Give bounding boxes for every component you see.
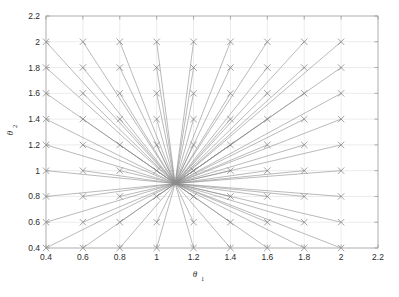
convergence-plot: 0.40.60.811.21.41.61.822.2 0.40.60.811.2… bbox=[0, 0, 399, 297]
y-axis-title-text: θ bbox=[5, 130, 15, 135]
x-tick-labels: 0.40.60.811.21.41.61.822.2 bbox=[40, 252, 384, 262]
x-axis-title: θ 1 bbox=[193, 269, 204, 282]
x-tick-label: 1.6 bbox=[261, 252, 273, 262]
x-tick-label: 2.2 bbox=[372, 252, 384, 262]
grid-lines bbox=[46, 16, 378, 248]
trajectory-line bbox=[46, 184, 175, 223]
y-tick-label: 2 bbox=[35, 37, 40, 47]
trajectory-line bbox=[175, 119, 341, 183]
trajectory-line bbox=[175, 42, 193, 184]
trajectory-line bbox=[175, 184, 304, 248]
x-tick-label: 2 bbox=[339, 252, 344, 262]
trajectory-line bbox=[175, 184, 341, 197]
trajectory-line bbox=[83, 42, 175, 184]
y-axis-title: θ 2 bbox=[5, 125, 18, 135]
trajectory-line bbox=[175, 171, 304, 184]
trajectory-line bbox=[175, 68, 304, 184]
x-tick-label: 1.8 bbox=[298, 252, 310, 262]
y-axis-title-subscript: 2 bbox=[11, 125, 18, 128]
trajectory-line bbox=[46, 119, 175, 183]
trajectory-line bbox=[175, 145, 341, 184]
y-tick-label: 1.2 bbox=[28, 140, 40, 150]
trajectory-line bbox=[175, 42, 267, 184]
y-tick-label: 0.4 bbox=[28, 243, 40, 253]
trajectory-line bbox=[175, 171, 341, 184]
trajectory-line bbox=[46, 68, 175, 184]
trajectory-line bbox=[83, 68, 175, 184]
x-tick-label: 0.6 bbox=[77, 252, 89, 262]
trajectory-line bbox=[175, 119, 230, 183]
x-tick-label: 0.4 bbox=[40, 252, 52, 262]
trajectory-line bbox=[175, 184, 304, 223]
trajectory-line bbox=[175, 184, 341, 223]
x-tick-label: 1.4 bbox=[225, 252, 237, 262]
trajectory-line bbox=[175, 42, 304, 184]
y-tick-label: 1.6 bbox=[28, 88, 40, 98]
trajectory-line bbox=[120, 119, 175, 183]
trajectory-line bbox=[175, 68, 267, 184]
trajectory-line bbox=[157, 93, 175, 183]
y-tick-label: 1.8 bbox=[28, 63, 40, 73]
trajectory-line bbox=[46, 184, 175, 248]
trajectory-line bbox=[175, 68, 341, 184]
trajectory-line bbox=[175, 184, 304, 197]
y-tick-labels: 0.40.60.811.21.41.61.822.2 bbox=[28, 11, 40, 253]
y-tick-label: 1.4 bbox=[28, 114, 40, 124]
tick-marks bbox=[46, 16, 378, 248]
x-tick-label: 0.8 bbox=[114, 252, 126, 262]
x-tick-label: 1 bbox=[154, 252, 159, 262]
trajectory-line bbox=[46, 184, 175, 197]
trajectory-line bbox=[46, 171, 175, 184]
y-tick-label: 2.2 bbox=[28, 11, 40, 21]
x-axis-title-text: θ bbox=[193, 269, 198, 279]
trajectory-line bbox=[83, 145, 175, 184]
figure-canvas: 0.40.60.811.21.41.61.822.2 0.40.60.811.2… bbox=[0, 0, 399, 297]
x-axis-title-subscript: 1 bbox=[201, 275, 204, 282]
trajectory-line bbox=[157, 42, 175, 184]
trajectory-line bbox=[175, 184, 230, 248]
trajectory-line bbox=[120, 42, 175, 184]
axes-box bbox=[46, 16, 378, 248]
axes-frame bbox=[46, 16, 378, 248]
trajectory-line bbox=[46, 42, 175, 184]
trajectory-line bbox=[175, 184, 341, 248]
trajectory-line bbox=[175, 184, 267, 248]
trajectory-line bbox=[120, 184, 175, 248]
x-tick-label: 1.2 bbox=[188, 252, 200, 262]
trajectory-line bbox=[83, 184, 175, 223]
trajectory-line bbox=[175, 42, 341, 184]
trajectory-line bbox=[175, 68, 230, 184]
trajectory-line bbox=[175, 42, 230, 184]
y-tick-label: 1 bbox=[35, 166, 40, 176]
y-tick-label: 0.8 bbox=[28, 191, 40, 201]
trajectory-line bbox=[175, 93, 341, 183]
y-tick-label: 0.6 bbox=[28, 217, 40, 227]
